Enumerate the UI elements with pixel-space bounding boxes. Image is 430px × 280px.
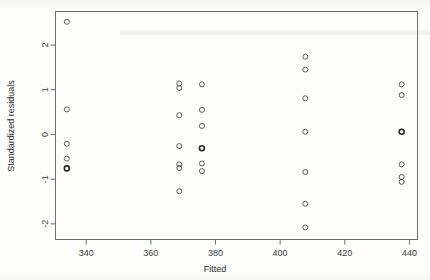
data-point [199, 169, 204, 174]
x-axis: 340360380400420440 [79, 240, 417, 258]
data-point [303, 129, 308, 134]
data-point [64, 107, 69, 112]
y-axis-label: Standardized residuals [6, 80, 16, 172]
data-point [64, 166, 69, 171]
data-point [399, 93, 404, 98]
data-point [199, 107, 204, 112]
x-axis-tick-label: 340 [79, 248, 94, 258]
x-axis-tick-label: 380 [208, 248, 223, 258]
x-axis-tick-label: 440 [402, 248, 417, 258]
x-axis-tick-label: 400 [273, 248, 288, 258]
data-point [303, 96, 308, 101]
scatter-plot-canvas: -2-1012 340360380400420440 Fitted Standa… [0, 0, 430, 280]
data-point [199, 82, 204, 87]
y-axis-tick-label: 0 [40, 132, 50, 137]
y-axis-tick-label: 2 [40, 43, 50, 48]
y-axis: -2-1012 [40, 43, 56, 228]
data-point [199, 146, 204, 151]
plot-frame [56, 12, 418, 240]
data-point [64, 156, 69, 161]
residual-plot: -2-1012 340360380400420440 Fitted Standa… [0, 0, 430, 280]
data-point [399, 174, 404, 179]
data-point [177, 189, 182, 194]
data-point [399, 179, 404, 184]
data-point [64, 19, 69, 24]
x-axis-label: Fitted [204, 264, 227, 274]
data-point [199, 161, 204, 166]
data-point [399, 129, 404, 134]
y-axis-tick-label: 1 [40, 87, 50, 92]
x-axis-tick-label: 360 [143, 248, 158, 258]
data-point [303, 169, 308, 174]
data-point [177, 165, 182, 170]
data-points-layer [64, 19, 404, 230]
y-axis-tick-label: -1 [40, 175, 50, 183]
data-point [399, 82, 404, 87]
data-point [177, 113, 182, 118]
data-point [199, 123, 204, 128]
data-point [303, 201, 308, 206]
data-point [64, 141, 69, 146]
y-axis-tick-label: -2 [40, 220, 50, 228]
data-point [303, 67, 308, 72]
x-axis-tick-label: 420 [337, 248, 352, 258]
data-point [177, 144, 182, 149]
data-point [399, 162, 404, 167]
data-point [303, 225, 308, 230]
data-point [303, 54, 308, 59]
